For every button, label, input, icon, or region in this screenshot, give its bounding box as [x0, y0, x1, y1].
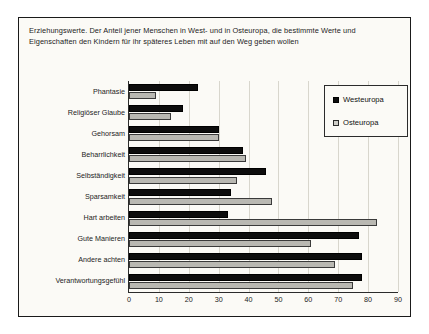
- x-axis-tick-label: 30: [215, 295, 223, 304]
- legend-label-osteuropa: Osteuropa: [343, 118, 378, 127]
- y-axis-category-label: Andere achten: [78, 255, 125, 264]
- chart-category-row: Andere achten: [129, 250, 398, 271]
- chart-legend: Westeuropa Osteuropa: [324, 85, 408, 137]
- bar-osteuropa: [129, 92, 156, 99]
- x-axis-tick-label: 50: [274, 295, 282, 304]
- y-axis-category-label: Verantwortungsgefühl: [55, 276, 125, 285]
- bar-osteuropa: [129, 219, 377, 226]
- y-axis-category-label: Gute Manieren: [77, 234, 125, 243]
- chart-category-row: Hart arbeiten: [129, 208, 398, 229]
- chart-figure: Erziehungswerte. Der Anteil jener Mensch…: [18, 17, 411, 317]
- x-axis-tick-label: 0: [127, 295, 131, 304]
- y-axis-category-label: Beharrlichkeit: [81, 150, 125, 159]
- x-axis-tick-label: 60: [304, 295, 312, 304]
- chart-caption: Erziehungswerte. Der Anteil jener Mensch…: [29, 26, 399, 47]
- bar-westeuropa: [129, 126, 219, 133]
- y-axis-category-label: Phantasie: [93, 87, 125, 96]
- chart-category-row: Beharrlichkeit: [129, 144, 398, 165]
- chart-category-row: Gute Manieren: [129, 229, 398, 250]
- bar-osteuropa: [129, 134, 219, 141]
- y-axis-category-label: Hart arbeiten: [83, 213, 125, 222]
- x-axis-tick-label: 90: [394, 295, 402, 304]
- x-axis-tick-label: 20: [185, 295, 193, 304]
- x-axis-tick-label: 80: [364, 295, 372, 304]
- y-axis-category-label: Sparsamkeit: [85, 192, 125, 201]
- bar-westeuropa: [129, 189, 231, 196]
- bar-westeuropa: [129, 253, 362, 260]
- bar-westeuropa: [129, 168, 266, 175]
- x-axis-tick-label: 10: [155, 295, 163, 304]
- bar-westeuropa: [129, 232, 359, 239]
- bar-osteuropa: [129, 198, 272, 205]
- y-axis-category-label: Religiöser Glaube: [68, 108, 125, 117]
- bar-osteuropa: [129, 282, 353, 289]
- bar-westeuropa: [129, 105, 183, 112]
- x-axis-tick-label: 40: [245, 295, 253, 304]
- legend-item-westeuropa: Westeuropa: [333, 95, 384, 104]
- y-axis-category-label: Selbständigkeit: [76, 171, 125, 180]
- x-axis-tick-label: 70: [334, 295, 342, 304]
- legend-swatch-westeuropa-icon: [333, 97, 339, 103]
- bar-westeuropa: [129, 211, 228, 218]
- chart-category-row: Verantwortungsgefühl: [129, 271, 398, 292]
- legend-swatch-osteuropa-icon: [333, 120, 339, 126]
- bar-osteuropa: [129, 261, 335, 268]
- bar-osteuropa: [129, 155, 246, 162]
- chart-category-row: Sparsamkeit: [129, 187, 398, 208]
- y-axis-category-label: Gehorsam: [91, 129, 125, 138]
- chart-category-row: Selbständigkeit: [129, 165, 398, 186]
- bar-westeuropa: [129, 84, 198, 91]
- bar-osteuropa: [129, 240, 311, 247]
- legend-label-westeuropa: Westeuropa: [343, 95, 384, 104]
- bar-osteuropa: [129, 113, 171, 120]
- bar-osteuropa: [129, 177, 237, 184]
- bar-westeuropa: [129, 274, 362, 281]
- legend-item-osteuropa: Osteuropa: [333, 118, 378, 127]
- bar-westeuropa: [129, 147, 243, 154]
